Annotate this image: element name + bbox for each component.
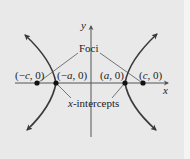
diagram-stage: y x Foci x-intercepts (−c, 0) (−a, 0) (a…: [0, 0, 190, 159]
left-branch-lower: [27, 83, 56, 130]
y-axis-label: y: [80, 19, 86, 31]
focus-point-right: [140, 80, 145, 85]
vertex-point-right: [122, 80, 127, 85]
foci-label: Foci: [79, 42, 99, 54]
x-intercepts-label: x-intercepts: [67, 97, 119, 109]
point-label-neg-c: (−c, 0): [15, 69, 45, 82]
x-axis-label: x: [162, 84, 168, 96]
vertex-point-left: [53, 80, 58, 85]
point-label-pos-c: (c, 0): [139, 69, 163, 82]
point-label-neg-a: (−a, 0): [57, 69, 87, 82]
right-branch-lower: [125, 83, 156, 130]
x-intercepts-label-rest: -intercepts: [73, 97, 119, 109]
hyperbola-diagram: y x Foci x-intercepts (−c, 0) (−a, 0) (a…: [0, 0, 190, 159]
focus-point-left: [34, 80, 39, 85]
intercepts-leader-left: [57, 84, 71, 98]
point-label-pos-a: (a, 0): [100, 69, 124, 82]
intercepts-leader-right: [112, 84, 124, 98]
